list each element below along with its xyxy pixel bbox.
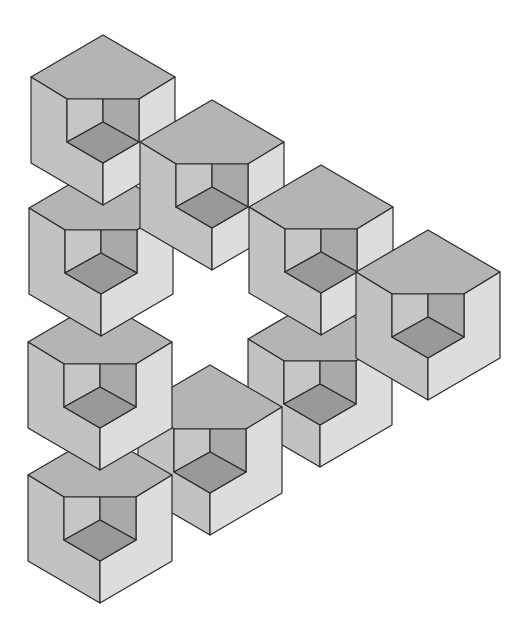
cube-top-face [31,35,175,99]
impossible-cube-triangle-figure: Impossible triangle of notched cubes [0,0,527,637]
figure-canvas [0,0,527,637]
